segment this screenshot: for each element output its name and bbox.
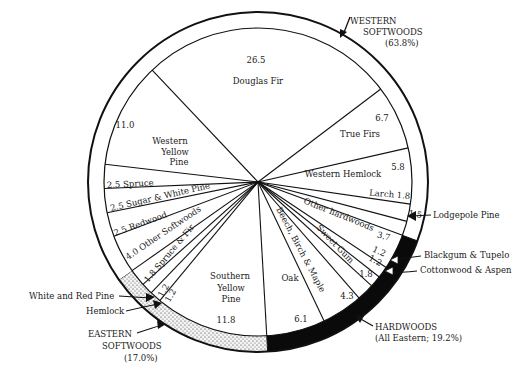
cottonwood-callout: Cottonwood & Aspen	[420, 265, 512, 275]
spruce-label: 2.5 Spruce	[107, 178, 154, 190]
beech-birch-maple-value: 4.3	[340, 291, 354, 301]
western-hemlock-value: 5.8	[391, 162, 405, 172]
western-softwoods-line2: SOFTWOODS	[363, 27, 423, 37]
western-softwoods-line1: WESTERN	[350, 16, 397, 26]
true-firs-label: True Firs	[340, 129, 380, 139]
other-hardwoods-value: 3.7	[376, 230, 392, 243]
oak-value: 6.1	[294, 314, 308, 324]
douglas-fir-value: 26.5	[247, 55, 266, 65]
slice-divider	[258, 182, 267, 336]
western-yellow-pine-value: 11.0	[116, 120, 135, 130]
slice-divider	[152, 70, 258, 182]
southern-yellow-pine-line2: Yellow	[216, 283, 245, 293]
douglas-fir-label: Douglas Fir	[233, 76, 284, 86]
white-red-pine-callout: White and Red Pine	[29, 291, 114, 301]
hemlock-callout: Hemlock	[86, 306, 125, 316]
southern-yellow-pine-line1: Southern	[210, 271, 250, 281]
southern-yellow-pine-value: 11.8	[217, 315, 236, 325]
western-softwoods-line3: (63.8%)	[385, 38, 419, 48]
southern-yellow-pine-line3: Pine	[222, 294, 241, 304]
hardwoods-line1: HARDWOODS	[375, 322, 437, 332]
eastern-softwoods-line1: EASTERN	[88, 329, 132, 339]
western-hemlock-label: Western Hemlock	[305, 169, 382, 179]
western-yellow-pine-line1: Western	[152, 136, 188, 146]
pie-chart: 26.5 Douglas Fir 6.7 True Firs 5.8 Weste…	[0, 0, 530, 372]
eastern-softwoods-line3: (17.0%)	[124, 353, 158, 363]
lodgepole-callout: Lodgepole Pine	[433, 210, 500, 220]
other-hardwoods-label: Other hardwoods	[302, 196, 375, 233]
true-firs-value: 6.7	[375, 113, 389, 123]
hardwoods-line2: (All Eastern; 19.2%)	[375, 333, 462, 343]
eastern-softwoods-line2: SOFTWOODS	[102, 341, 162, 351]
blackgum-callout: Blackgum & Tupelo	[424, 250, 509, 260]
sweet-gum-value: 1.8	[359, 269, 373, 279]
western-yellow-pine-line2: Yellow	[160, 147, 189, 157]
western-yellow-pine-line3: Pine	[170, 157, 189, 167]
oak-label: Oak	[281, 273, 299, 283]
